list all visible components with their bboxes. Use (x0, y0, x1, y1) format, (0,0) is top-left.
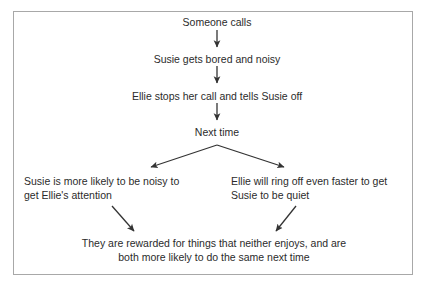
branch-left-outcome: Susie is more likely to be noisy to get … (24, 174, 179, 202)
flowchart-screenshot: Someone calls Susie gets bored and noisy… (0, 0, 429, 291)
branch-right-outcome: Ellie will ring off even faster to get S… (231, 174, 387, 202)
conclusion-line1: They are rewarded for things that neithe… (82, 236, 346, 250)
conclusion-block: They are rewarded for things that neithe… (82, 236, 346, 264)
node-next-time: Next time (195, 126, 239, 140)
branch-right-line2: Susie to be quiet (231, 188, 387, 202)
branch-right-line1: Ellie will ring off even faster to get (231, 174, 387, 188)
node-ellie-stops-call: Ellie stops her call and tells Susie off (132, 90, 302, 104)
node-someone-calls: Someone calls (183, 16, 252, 30)
node-susie-bored: Susie gets bored and noisy (154, 53, 281, 67)
branch-left-line1: Susie is more likely to be noisy to (24, 174, 179, 188)
conclusion-line2: both more likely to do the same next tim… (82, 250, 346, 264)
branch-left-line2: get Ellie's attention (24, 188, 179, 202)
